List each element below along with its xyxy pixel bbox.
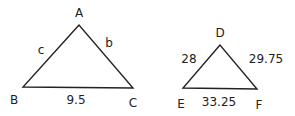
similar-triangles-diagram: A c b B 9.5 C D 28 29.75 E 33.25 F bbox=[0, 0, 295, 116]
vertex-label-b: B bbox=[10, 94, 18, 106]
side-label-b: b bbox=[105, 37, 113, 49]
side-label-de: 28 bbox=[181, 53, 196, 65]
side-label-df: 29.75 bbox=[249, 53, 283, 65]
side-label-c: c bbox=[38, 44, 45, 56]
side-label-ef: 33.25 bbox=[202, 96, 236, 108]
side-label-bc: 9.5 bbox=[66, 94, 85, 106]
vertex-label-e: E bbox=[177, 98, 185, 110]
vertex-label-d: D bbox=[215, 27, 224, 39]
vertex-label-c: C bbox=[129, 97, 137, 109]
vertex-label-a: A bbox=[75, 7, 83, 19]
vertex-label-f: F bbox=[256, 99, 263, 111]
